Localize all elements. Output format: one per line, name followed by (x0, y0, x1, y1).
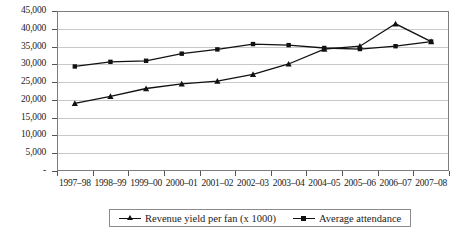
x-tick-label: 1999–00 (130, 178, 162, 189)
x-tick-label: 1997–98 (59, 178, 91, 189)
x-tick-label: 2003–04 (273, 178, 305, 189)
x-tick-mark (164, 171, 165, 176)
y-tick-label: 25,000 (21, 77, 46, 87)
gridline (58, 64, 448, 65)
y-tick-label: 15,000 (21, 113, 46, 123)
y-tick-label: 45,000 (21, 6, 46, 16)
x-tick-mark (271, 171, 272, 176)
x-tick-label: 1998–99 (95, 178, 127, 189)
gridline (58, 47, 448, 48)
x-tick-mark (342, 171, 343, 176)
x-tick-label: 2001–02 (201, 178, 233, 189)
gridline (58, 153, 448, 154)
legend-label-revenue-yield-per-fan: Revenue yield per fan (x 1000) (145, 213, 276, 224)
gridline (58, 135, 448, 136)
y-tick-label: - (43, 166, 46, 176)
x-tick-label: 2002–03 (237, 178, 269, 189)
chart-container: 45,00040,00035,00030,00025,00020,00015,0… (0, 0, 470, 233)
plot-area (57, 11, 449, 171)
gridline (58, 100, 448, 101)
x-tick-mark (449, 171, 450, 176)
y-tick-label: 10,000 (21, 131, 46, 141)
square-marker-icon (293, 213, 315, 223)
triangle-marker-icon (119, 213, 141, 223)
x-tick-mark (93, 171, 94, 176)
x-tick-mark (200, 171, 201, 176)
y-tick-label: 30,000 (21, 60, 46, 70)
x-tick-mark (235, 171, 236, 176)
x-tick-mark (306, 171, 307, 176)
y-tick-label: 35,000 (21, 42, 46, 52)
gridline (58, 29, 448, 30)
gridline (58, 82, 448, 83)
legend-item-average-attendance: Average attendance (293, 213, 401, 224)
y-tick-label: 20,000 (21, 95, 46, 105)
x-tick-mark (57, 171, 58, 176)
x-tick-label: 2006–07 (380, 178, 412, 189)
x-tick-label: 2007–08 (415, 178, 447, 189)
chart-legend: Revenue yield per fan (x 1000) Average a… (109, 209, 411, 227)
y-tick-label: 5,000 (26, 148, 46, 158)
x-tick-mark (378, 171, 379, 176)
x-tick-label: 2005–06 (344, 178, 376, 189)
y-axis: 45,00040,00035,00030,00025,00020,00015,0… (0, 0, 52, 233)
y-tick-label: 40,000 (21, 24, 46, 34)
gridline (58, 118, 448, 119)
x-tick-mark (128, 171, 129, 176)
x-tick-mark (413, 171, 414, 176)
x-tick-label: 2004–05 (308, 178, 340, 189)
legend-item-revenue-yield-per-fan: Revenue yield per fan (x 1000) (119, 213, 276, 224)
legend-label-average-attendance: Average attendance (319, 213, 401, 224)
x-tick-label: 2000–01 (166, 178, 198, 189)
